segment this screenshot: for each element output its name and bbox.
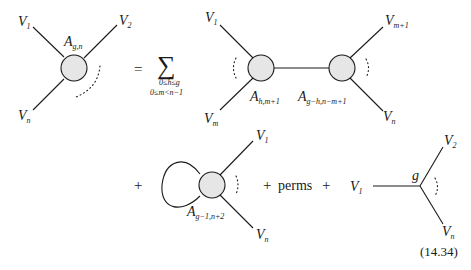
term1-leg-m1 (350, 27, 383, 58)
term1-right-vertex-label: Ag−h,n−m+1 (297, 89, 347, 106)
term1-right-ellipsis (366, 59, 369, 78)
lhs-leg-2-label: V2 (119, 13, 132, 30)
term3-diagram: g V1 V2 Vn (350, 133, 457, 241)
sum-limit-1: 0≤h≤g (159, 78, 180, 87)
lhs-leg-n (33, 79, 64, 110)
term1-leg-n (350, 78, 383, 111)
term1-leg-1-label: V1 (205, 10, 218, 27)
term3-leg-2-label: V2 (444, 133, 457, 150)
plus-sign-3: + (322, 177, 330, 193)
term2-blob (199, 172, 225, 198)
term1-leg-1 (220, 25, 253, 58)
term1-diagram: V1 Vm Vm+1 Vn Ah,m+1 Ag−h,n−m+1 (204, 10, 409, 128)
sum-limit-2: 0≤m<n−1 (150, 88, 183, 97)
term1-leg-m (220, 78, 253, 110)
equals-sign: = (134, 61, 142, 77)
equation-diagram: V1 V2 Vn Ag,n = ∑ 0≤h≤g 0≤m<n−1 V1 Vm Vm… (0, 0, 471, 270)
term3-vertex-label: g (412, 168, 419, 183)
equation-number: (14.34) (420, 244, 458, 259)
plus-sign-2: + (263, 177, 271, 193)
summation: ∑ 0≤h≤g 0≤m<n−1 (150, 51, 183, 97)
term3-leg-2 (420, 147, 443, 186)
lhs-leg-1 (33, 27, 64, 57)
lhs-leg-2 (84, 25, 117, 58)
perms-text: perms (278, 178, 312, 193)
term1-leg-m1-label: Vm+1 (385, 13, 409, 30)
lhs-diagram: V1 V2 Vn Ag,n (18, 13, 132, 125)
term2-ellipsis (236, 176, 238, 194)
lhs-leg-1-label: V1 (18, 14, 31, 31)
lhs-leg-n-label: Vn (18, 108, 31, 125)
term1-left-blob (248, 55, 274, 81)
lhs-vertex-blob (61, 55, 87, 81)
term2-leg-n (220, 195, 253, 228)
term3-leg-n (420, 186, 443, 224)
term2-leg-1 (220, 141, 253, 175)
sum-symbol: ∑ (157, 51, 176, 80)
term2-diagram: V1 Vn Ag−1,n+2 (162, 128, 269, 244)
term3-leg-1-label: V1 (350, 179, 363, 196)
term1-right-blob (329, 55, 355, 81)
term1-left-vertex-label: Ah,m+1 (249, 89, 280, 106)
plus-sign-1: + (134, 177, 142, 193)
lhs-vertex-label: Ag,n (63, 34, 83, 51)
term3-leg-n-label: Vn (442, 224, 455, 241)
term3-ellipsis (435, 178, 438, 196)
term1-leg-m-label: Vm (204, 111, 219, 128)
term1-leg-n-label: Vn (383, 109, 396, 126)
term1-left-ellipsis (234, 58, 237, 78)
term2-leg-n-label: Vn (256, 227, 269, 244)
term2-loop (162, 162, 200, 207)
term2-vertex-label: Ag−1,n+2 (186, 204, 224, 221)
term2-leg-1-label: V1 (256, 128, 269, 145)
